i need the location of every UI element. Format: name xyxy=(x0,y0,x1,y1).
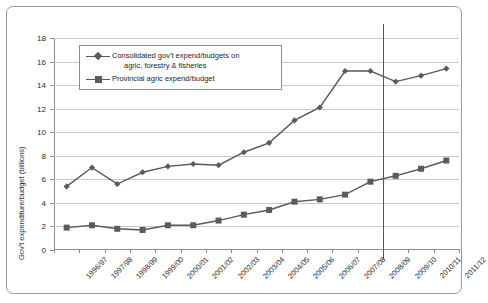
diamond-marker-icon xyxy=(86,52,110,61)
data-point-diamond xyxy=(367,68,373,74)
data-point-diamond xyxy=(393,78,399,84)
data-point-square xyxy=(190,222,196,228)
x-tick-label: 2000/01 xyxy=(185,255,211,281)
data-point-square xyxy=(418,166,424,172)
y-tick-label: 10 xyxy=(7,128,46,137)
legend-label-consolidated: Consolidated gov't expend/budgets on agr… xyxy=(110,51,239,70)
data-point-square xyxy=(64,225,70,231)
y-tick-label: 16 xyxy=(7,57,46,66)
chart-frame: Gov't expenditure/budget (billions) 0246… xyxy=(6,6,462,294)
y-tick-label: 6 xyxy=(7,175,46,184)
series-provincial xyxy=(64,157,450,232)
x-tick-label: 2002/03 xyxy=(235,255,261,281)
data-point-square xyxy=(443,157,449,163)
data-point-diamond xyxy=(215,162,221,168)
data-point-diamond xyxy=(241,149,247,155)
x-tick-label: 2004/05 xyxy=(286,255,312,281)
legend-label-consolidated-line2: agric, forestry & fisheries xyxy=(112,61,207,71)
chart-legend: Consolidated gov't expend/budgets on agr… xyxy=(79,45,282,90)
data-point-square xyxy=(216,218,222,224)
x-tick-label: 1996/97 xyxy=(84,255,110,281)
x-tick-label: 2010/11 xyxy=(438,255,463,280)
data-point-square xyxy=(393,173,399,179)
data-point-diamond xyxy=(139,169,145,175)
x-tick-label: 2001/02 xyxy=(210,255,236,281)
data-point-square xyxy=(165,222,171,228)
y-tick-label: 18 xyxy=(7,34,46,43)
data-point-square xyxy=(317,196,323,202)
data-point-diamond xyxy=(443,66,449,72)
data-point-diamond xyxy=(418,73,424,79)
series-line xyxy=(67,160,447,229)
x-tick-label: 2009/10 xyxy=(413,255,439,281)
square-marker-icon xyxy=(86,75,110,84)
x-tick-label: 2005/06 xyxy=(311,255,337,281)
y-tick-label: 14 xyxy=(7,81,46,90)
x-tick-label: 1997/98 xyxy=(109,255,135,281)
x-tick-label: 2011/12 xyxy=(463,255,488,280)
x-tick-label: 1999/00 xyxy=(160,255,186,281)
data-point-square xyxy=(241,212,247,218)
data-point-square xyxy=(266,207,272,213)
legend-entry-provincial: Provincial agric expend/budget xyxy=(86,74,215,84)
y-tick-label: 0 xyxy=(7,246,46,255)
data-point-diamond xyxy=(165,163,171,169)
x-tick-label: 1998/99 xyxy=(134,255,160,281)
x-tick-mark xyxy=(459,249,460,253)
data-point-square xyxy=(89,222,95,228)
data-point-square xyxy=(367,179,373,185)
legend-entry-consolidated: Consolidated gov't expend/budgets on agr… xyxy=(86,51,239,70)
data-point-square xyxy=(291,199,297,205)
x-tick-label: 2007/08 xyxy=(362,255,388,281)
data-point-diamond xyxy=(190,161,196,167)
data-point-square xyxy=(114,226,120,232)
legend-label-consolidated-line1: Consolidated gov't expend/budgets on xyxy=(112,51,239,60)
y-tick-label: 2 xyxy=(7,222,46,231)
data-point-square xyxy=(342,192,348,198)
x-tick-label: 2006/07 xyxy=(337,255,363,281)
x-tick-label: 2003/04 xyxy=(261,255,287,281)
y-tick-label: 12 xyxy=(7,104,46,113)
legend-label-provincial: Provincial agric expend/budget xyxy=(110,74,215,84)
data-point-square xyxy=(140,227,146,233)
y-tick-label: 4 xyxy=(7,198,46,207)
y-tick-label: 8 xyxy=(7,151,46,160)
x-tick-label: 2008/09 xyxy=(387,255,413,281)
